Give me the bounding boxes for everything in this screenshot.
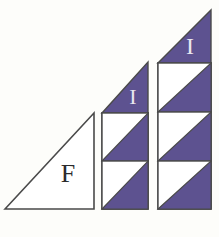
- cell-large-1: [158, 63, 211, 112]
- cell-mid-2: [102, 161, 148, 209]
- cell-large-2: [158, 112, 211, 161]
- label-i-medium: I: [129, 84, 136, 109]
- label-f: F: [61, 159, 75, 188]
- triangle-figure-canvas: F I: [0, 0, 219, 237]
- label-i-large: I: [186, 33, 194, 59]
- figure-container: F I: [0, 0, 219, 237]
- cell-large-3: [158, 161, 211, 209]
- cell-mid-1: [102, 113, 148, 161]
